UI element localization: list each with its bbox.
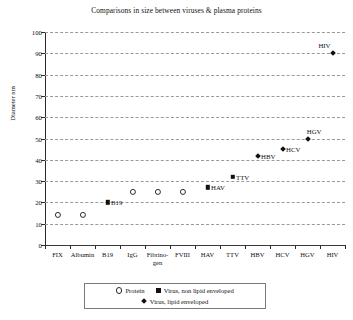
y-tick-label-60: 60 bbox=[18, 114, 42, 121]
y-tick-label-90: 90 bbox=[18, 50, 42, 57]
data-point-hgv bbox=[305, 136, 311, 142]
y-tick-label-0: 0 bbox=[18, 242, 42, 249]
chart-title: Comparisons in size between viruses & pl… bbox=[0, 6, 353, 15]
legend-marker-square-icon bbox=[156, 288, 160, 292]
y-tick-label-80: 80 bbox=[18, 71, 42, 78]
data-point-hbv bbox=[255, 153, 261, 159]
data-point-hiv bbox=[330, 50, 336, 56]
legend-label-2: Virus, lipid enveloped bbox=[150, 298, 208, 305]
data-point-hcv bbox=[280, 146, 286, 152]
data-label-hcv: HCV bbox=[286, 146, 300, 153]
y-axis-title: Diameter nm bbox=[9, 74, 16, 134]
gridline-10 bbox=[45, 224, 345, 225]
legend-row-primary: ProteinVirus, non lipid enveloped bbox=[85, 287, 265, 294]
data-point-fibrino-gen bbox=[154, 189, 160, 195]
legend-label-0: Protein bbox=[125, 287, 144, 294]
chart-container: Comparisons in size between viruses & pl… bbox=[0, 0, 353, 320]
x-tick-label-hiv: HIV bbox=[313, 251, 353, 259]
data-point-hav bbox=[205, 185, 209, 189]
gridline-20 bbox=[45, 202, 345, 203]
x-tick-mark-9 bbox=[270, 245, 271, 249]
legend-label-1: Virus, non lipid enveloped bbox=[164, 287, 234, 294]
y-tick-label-20: 20 bbox=[18, 199, 42, 206]
data-label-hav: HAV bbox=[211, 184, 225, 191]
legend-entry-2: Virus, lipid enveloped bbox=[142, 298, 208, 305]
data-point-b19 bbox=[105, 200, 109, 204]
x-tick-mark-4 bbox=[145, 245, 146, 249]
data-point-ttv bbox=[230, 175, 234, 179]
plot-area: B19HAVTTVHBVHCVHGVHIV bbox=[45, 32, 345, 245]
y-tick-label-50: 50 bbox=[18, 135, 42, 142]
gridline-60 bbox=[45, 117, 345, 118]
gridline-70 bbox=[45, 96, 345, 97]
x-tick-mark-3 bbox=[120, 245, 121, 249]
data-label-hiv: HIV bbox=[318, 42, 330, 49]
legend-row-secondary: Virus, lipid enveloped bbox=[85, 298, 265, 305]
legend-entry-0: Protein bbox=[116, 287, 144, 294]
data-label-ttv: TTV bbox=[236, 173, 249, 180]
gridline-30 bbox=[45, 181, 345, 182]
data-label-b19: B19 bbox=[111, 199, 122, 206]
data-label-hbv: HBV bbox=[261, 152, 275, 159]
gridline-50 bbox=[45, 139, 345, 140]
x-tick-mark-11 bbox=[320, 245, 321, 249]
chart-legend: ProteinVirus, non lipid enveloped Virus,… bbox=[84, 283, 266, 309]
x-tick-mark-0 bbox=[45, 245, 46, 249]
gridline-40 bbox=[45, 160, 345, 161]
legend-marker-protein-icon bbox=[116, 287, 122, 293]
x-tick-mark-8 bbox=[245, 245, 246, 249]
y-tick-label-10: 10 bbox=[18, 220, 42, 227]
y-tick-label-40: 40 bbox=[18, 156, 42, 163]
x-tick-mark-7 bbox=[220, 245, 221, 249]
y-tick-label-30: 30 bbox=[18, 178, 42, 185]
x-tick-mark-1 bbox=[70, 245, 71, 249]
x-tick-mark-6 bbox=[195, 245, 196, 249]
x-tick-mark-2 bbox=[95, 245, 96, 249]
gridline-80 bbox=[45, 75, 345, 76]
y-tick-label-100: 100 bbox=[18, 29, 42, 36]
legend-entry-1: Virus, non lipid enveloped bbox=[156, 287, 233, 294]
data-point-albumin bbox=[79, 212, 85, 218]
data-label-hgv: HGV bbox=[307, 127, 322, 134]
data-point-igg bbox=[129, 189, 135, 195]
data-point-fix bbox=[54, 212, 60, 218]
legend-marker-diamond-icon bbox=[141, 298, 147, 304]
gridline-100 bbox=[45, 32, 345, 33]
x-tick-mark-10 bbox=[295, 245, 296, 249]
y-tick-label-70: 70 bbox=[18, 92, 42, 99]
gridline-90 bbox=[45, 53, 345, 54]
x-tick-mark-12 bbox=[345, 245, 346, 249]
data-point-fviii bbox=[179, 189, 185, 195]
x-tick-mark-5 bbox=[170, 245, 171, 249]
